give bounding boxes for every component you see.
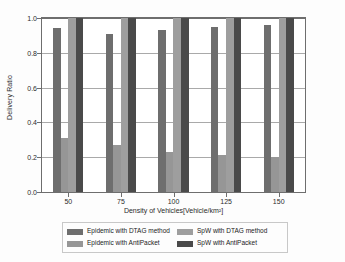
bar-series-container bbox=[42, 18, 305, 192]
bar bbox=[211, 27, 219, 192]
bar bbox=[286, 18, 294, 192]
bar bbox=[226, 18, 234, 192]
y-axis-title: Delivery Ratio bbox=[2, 0, 16, 195]
bar bbox=[218, 155, 226, 192]
x-tick-mark-75 bbox=[121, 193, 122, 197]
x-axis-title: Density of Vehicles[Vehicle/km²] bbox=[41, 207, 306, 214]
bar bbox=[181, 18, 189, 192]
bar-group-100 bbox=[158, 18, 188, 192]
bar-group-125 bbox=[211, 18, 241, 192]
bar bbox=[279, 18, 287, 192]
legend-entry[interactable]: SpW with AntiPacket bbox=[177, 238, 283, 249]
bar bbox=[113, 145, 121, 192]
bar bbox=[128, 18, 136, 192]
y-tick-label-0.2: 0.2 bbox=[11, 154, 37, 161]
y-tick-label-1.0: 1.0 bbox=[11, 15, 37, 22]
x-tick-label-150: 150 bbox=[259, 198, 299, 205]
y-tick-label-0.6: 0.6 bbox=[11, 84, 37, 91]
legend-label: Epidemic with DTAG method bbox=[87, 228, 170, 235]
bar bbox=[68, 18, 76, 192]
legend-entry[interactable]: Epidemic with AntiPacket bbox=[67, 238, 173, 249]
bar-group-50 bbox=[53, 18, 83, 192]
legend-swatch-icon bbox=[177, 229, 193, 235]
bar bbox=[271, 157, 279, 192]
y-axis-title-text: Delivery Ratio bbox=[6, 75, 13, 120]
x-tick-label-100: 100 bbox=[154, 198, 194, 205]
y-tick-label-0.8: 0.8 bbox=[11, 49, 37, 56]
legend-entry[interactable]: SpW with DTAG method bbox=[177, 226, 283, 237]
bar bbox=[173, 18, 181, 192]
legend-swatch-icon bbox=[67, 229, 83, 235]
legend-entry[interactable]: Epidemic with DTAG method bbox=[67, 226, 173, 237]
x-tick-mark-150 bbox=[279, 193, 280, 197]
plot-area bbox=[41, 17, 306, 193]
bar bbox=[61, 138, 69, 192]
x-tick-label-75: 75 bbox=[101, 198, 141, 205]
legend-swatch-icon bbox=[177, 241, 193, 247]
bar-group-75 bbox=[106, 18, 136, 192]
x-tick-mark-50 bbox=[68, 193, 69, 197]
legend-label: SpW with AntiPacket bbox=[197, 240, 257, 247]
x-tick-label-50: 50 bbox=[48, 198, 88, 205]
bar bbox=[106, 34, 114, 192]
x-tick-mark-125 bbox=[226, 193, 227, 197]
y-tick-label-0.4: 0.4 bbox=[11, 119, 37, 126]
bar bbox=[76, 18, 84, 192]
bar-group-150 bbox=[264, 18, 294, 192]
bar bbox=[53, 28, 61, 192]
x-tick-label-125: 125 bbox=[206, 198, 246, 205]
y-tick-label-0.0: 0.0 bbox=[11, 189, 37, 196]
bar bbox=[121, 18, 129, 192]
chart-figure: Delivery Ratio 0.00.20.40.60.81.0 507510… bbox=[0, 0, 345, 262]
bar bbox=[158, 30, 166, 192]
x-tick-mark-100 bbox=[174, 193, 175, 197]
bar bbox=[166, 152, 174, 192]
legend-label: SpW with DTAG method bbox=[197, 228, 267, 235]
legend-label: Epidemic with AntiPacket bbox=[87, 240, 160, 247]
chart-legend: Epidemic with DTAG methodSpW with DTAG m… bbox=[62, 222, 288, 253]
bar bbox=[264, 25, 272, 192]
bar bbox=[234, 18, 242, 192]
legend-swatch-icon bbox=[67, 241, 83, 247]
